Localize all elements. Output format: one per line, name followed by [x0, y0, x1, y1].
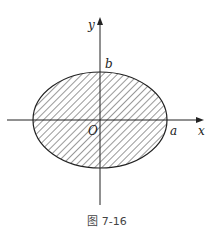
a-label: a — [170, 125, 177, 137]
figure-caption: 图 7-16 — [0, 212, 214, 228]
x-axis-arrow-icon — [196, 117, 204, 123]
b-label: b — [105, 58, 113, 70]
y-axis-label: y — [88, 19, 95, 31]
y-axis-arrow-icon — [97, 17, 103, 25]
ellipse-diagram — [0, 0, 214, 234]
x-axis-label: x — [198, 125, 205, 137]
origin-label: O — [88, 125, 98, 137]
